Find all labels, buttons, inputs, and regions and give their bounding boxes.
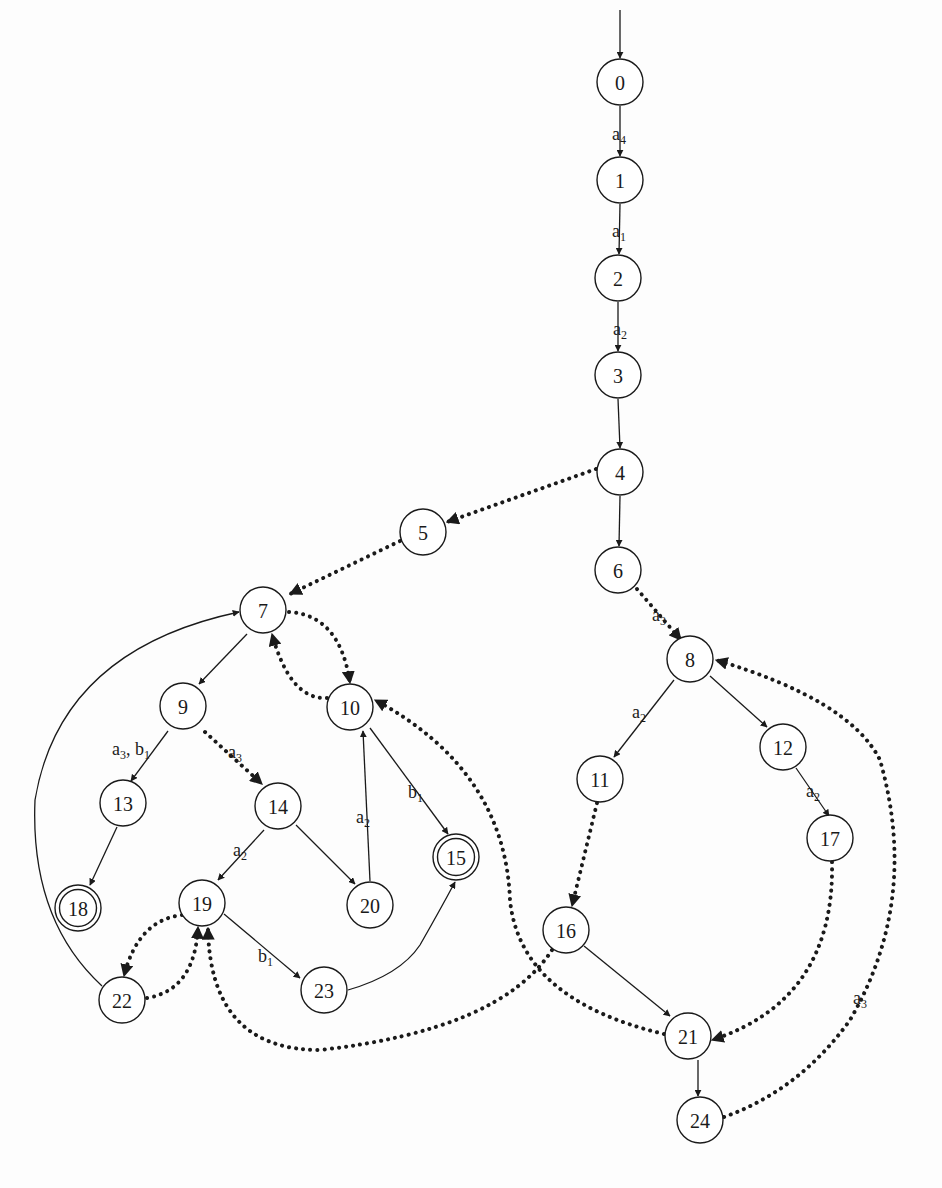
state-label: 18 (68, 898, 88, 920)
edge-24-to-8 (716, 660, 895, 1117)
state-label: 20 (360, 895, 380, 917)
state-label: 4 (615, 462, 625, 484)
edge-label-2-3: a2 (613, 319, 627, 342)
edge-8-to-12 (710, 676, 767, 727)
edge-label-20-10: a2 (356, 807, 370, 830)
edges-layer (35, 10, 895, 1117)
state-node-5: 5 (400, 509, 446, 555)
state-label: 21 (678, 1026, 698, 1048)
state-label: 10 (340, 697, 360, 719)
state-label: 24 (690, 1110, 710, 1132)
state-node-3: 3 (595, 352, 641, 398)
state-node-21: 21 (665, 1013, 711, 1059)
state-node-19: 19 (179, 880, 225, 926)
edge-21-to-10 (375, 700, 664, 1034)
nodes-layer: 0123456789101112131415161718192021222324 (55, 59, 853, 1143)
state-node-23: 23 (301, 967, 347, 1013)
state-node-13: 13 (100, 780, 146, 826)
state-label: 22 (112, 990, 132, 1012)
edge-19-to-22 (124, 915, 182, 976)
state-label: 3 (613, 365, 623, 387)
edge-5-to-7 (290, 541, 400, 594)
edge-label-9-13: a3, b1 (112, 739, 150, 762)
state-label: 5 (418, 522, 428, 544)
edge-label-6-8: a3 (652, 605, 666, 628)
state-label: 23 (314, 980, 334, 1002)
diagram-svg: a4a1a2a3a3, b1a3b1a2a2b1a2a2a3 012345678… (0, 0, 942, 1188)
edge-label-0-1: a4 (612, 124, 626, 147)
state-label: 0 (615, 72, 625, 94)
state-node-11: 11 (577, 756, 623, 802)
edge-label-14-19: a2 (233, 840, 247, 863)
state-label: 15 (446, 847, 466, 869)
state-label: 7 (258, 600, 268, 622)
edge-label-19-23: b1 (258, 946, 273, 969)
edge-10-to-7 (272, 634, 327, 698)
state-node-24: 24 (677, 1097, 723, 1143)
edge-label-10-15: b1 (408, 782, 423, 805)
state-label: 2 (613, 268, 623, 290)
state-node-12: 12 (760, 724, 806, 770)
edge-7-to-9 (199, 634, 247, 684)
edge-label-1-2: a1 (612, 221, 626, 244)
edge-labels-layer: a4a1a2a3a3, b1a3b1a2a2b1a2a2a3 (112, 124, 867, 1011)
edge-7-to-10 (289, 612, 350, 683)
state-node-16: 16 (543, 907, 589, 953)
edge-13-to-18 (90, 827, 117, 885)
state-label: 19 (192, 893, 212, 915)
state-node-10: 10 (327, 684, 373, 730)
state-label: 13 (113, 793, 133, 815)
state-node-15-accepting: 15 (433, 834, 479, 880)
state-node-9: 9 (160, 683, 206, 729)
state-node-0: 0 (597, 59, 643, 105)
edge-16-to-21 (584, 946, 670, 1016)
state-label: 1 (615, 170, 625, 192)
state-label: 8 (685, 649, 695, 671)
state-label: 12 (773, 737, 793, 759)
edge-label-12-17: a2 (806, 781, 820, 804)
state-node-6: 6 (595, 547, 641, 593)
state-diagram: a4a1a2a3a3, b1a3b1a2a2b1a2a2a3 012345678… (0, 0, 942, 1188)
edge-label-9-14: a3 (228, 742, 242, 765)
state-node-22: 22 (99, 977, 145, 1023)
state-label: 16 (556, 920, 576, 942)
edge-17-to-21 (712, 862, 832, 1040)
edge-4-to-6 (619, 496, 620, 546)
state-node-4: 4 (597, 449, 643, 495)
state-label: 11 (590, 769, 609, 791)
state-label: 6 (613, 560, 623, 582)
edge-14-to-20 (296, 825, 355, 884)
edge-4-to-5 (447, 469, 596, 522)
state-label: 14 (268, 796, 288, 818)
state-node-7: 7 (240, 587, 286, 633)
state-node-8: 8 (667, 636, 713, 682)
edge-20-to-10 (363, 731, 370, 881)
state-node-2: 2 (595, 255, 641, 301)
edge-22-to-19 (147, 927, 198, 998)
state-node-14: 14 (255, 783, 301, 829)
state-node-17: 17 (807, 815, 853, 861)
state-node-1: 1 (597, 157, 643, 203)
state-label: 9 (178, 696, 188, 718)
edge-11-to-16 (572, 803, 597, 906)
state-node-18-accepting: 18 (55, 885, 101, 931)
edge-3-to-4 (618, 399, 620, 448)
edge-label-8-11: a2 (632, 702, 646, 725)
state-label: 17 (820, 828, 840, 850)
state-node-20: 20 (347, 882, 393, 928)
